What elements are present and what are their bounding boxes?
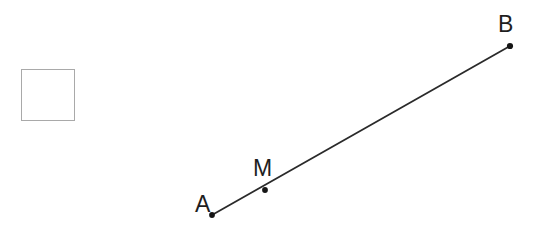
figure-canvas: A M B — [0, 0, 547, 239]
point-M-dot — [262, 187, 268, 193]
segment-AB — [212, 46, 510, 215]
empty-answer-box[interactable] — [22, 70, 75, 121]
point-label-m: M — [253, 157, 272, 180]
point-label-b: B — [498, 13, 513, 36]
point-B-dot — [507, 43, 513, 49]
geometry-figure — [0, 0, 547, 239]
point-label-a: A — [195, 193, 210, 216]
